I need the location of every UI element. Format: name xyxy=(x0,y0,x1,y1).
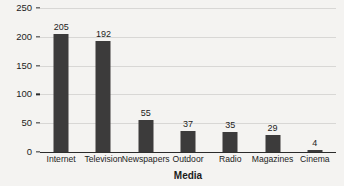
bar xyxy=(138,120,153,152)
y-tick-mark xyxy=(36,36,40,37)
bar xyxy=(265,135,280,152)
gridline xyxy=(40,94,336,95)
y-tick-label: 200 xyxy=(6,32,32,42)
bar-value-label: 205 xyxy=(41,23,81,32)
y-tick-mark xyxy=(36,151,40,152)
bar xyxy=(307,150,322,152)
bar-value-label: 55 xyxy=(126,109,166,118)
bar xyxy=(181,131,196,152)
y-tick-label: 0 xyxy=(6,147,32,157)
bar xyxy=(54,34,69,152)
y-tick-label: 150 xyxy=(6,61,32,71)
bar-value-label: 37 xyxy=(168,120,208,129)
bar-chart: Expenditure (US$ million) 05010015020025… xyxy=(0,0,344,186)
y-tick-label: 250 xyxy=(6,3,32,13)
gridline xyxy=(40,66,336,67)
bar-value-label: 29 xyxy=(253,124,293,133)
bar-value-label: 4 xyxy=(295,139,335,148)
x-axis-title: Media xyxy=(40,170,336,181)
y-tick-mark xyxy=(36,7,40,8)
bar-value-label: 35 xyxy=(210,121,250,130)
y-tick-label: 50 xyxy=(6,118,32,128)
y-tick-mark xyxy=(36,123,40,124)
bar xyxy=(96,41,111,152)
bar-value-label: 192 xyxy=(83,30,123,39)
y-tick-label: 100 xyxy=(6,90,32,100)
gridline xyxy=(40,8,336,9)
category-label: Cinema xyxy=(283,155,344,164)
y-tick-mark xyxy=(36,65,40,66)
y-tick-mark xyxy=(36,94,40,95)
bar xyxy=(223,132,238,152)
